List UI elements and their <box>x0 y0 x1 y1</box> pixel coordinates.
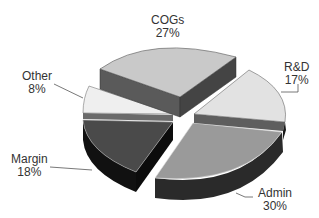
label-cogs-value: 27% <box>151 27 184 40</box>
label-margin-value: 18% <box>11 166 48 179</box>
leader-line-margin <box>50 167 92 170</box>
label-rd: R&D 17% <box>284 61 309 87</box>
pie-chart: COGs 27% R&D 17% Admin 30% Margin 18% Ot… <box>0 0 319 218</box>
label-admin-value: 30% <box>258 200 292 213</box>
label-cogs: COGs 27% <box>151 14 184 40</box>
leader-line-other <box>54 84 83 98</box>
label-other-value: 8% <box>22 83 52 96</box>
leader-line-admin <box>236 193 253 197</box>
label-rd-value: 17% <box>284 74 309 87</box>
label-other: Other 8% <box>22 70 52 96</box>
label-admin: Admin 30% <box>258 187 292 213</box>
label-margin: Margin 18% <box>11 153 48 179</box>
